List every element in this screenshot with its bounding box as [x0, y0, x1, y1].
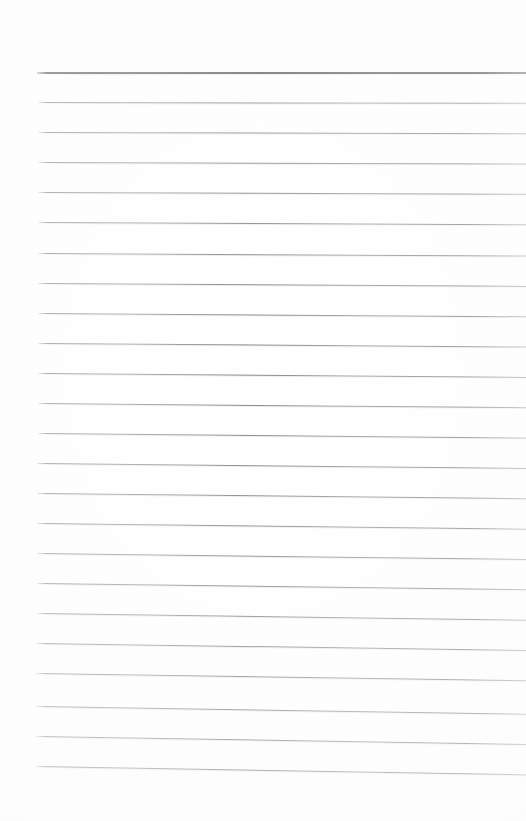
ruled-line	[37, 613, 526, 621]
scan-illumination-overlay	[0, 0, 526, 821]
ruled-line	[37, 72, 526, 74]
ruled-line	[38, 162, 526, 165]
paper-surface	[0, 0, 526, 821]
ruled-lines-layer	[0, 0, 526, 821]
ruled-line	[36, 736, 526, 745]
ruled-line	[36, 766, 526, 775]
ruled-line	[38, 283, 526, 287]
ruled-line	[38, 132, 526, 134]
ruled-line	[36, 673, 526, 681]
ruled-line	[38, 403, 526, 408]
ruled-line	[37, 523, 526, 530]
ruled-line	[36, 706, 526, 715]
ruled-line	[37, 583, 526, 590]
ruled-line	[37, 493, 526, 499]
ruled-line	[37, 463, 526, 469]
ruled-line	[38, 433, 526, 439]
ruled-line	[38, 343, 526, 348]
ruled-line	[38, 253, 526, 257]
ruled-line	[38, 102, 526, 104]
notepad-page	[0, 0, 526, 821]
ruled-line	[38, 313, 526, 317]
ruled-line	[38, 192, 526, 195]
ruled-line	[37, 553, 526, 560]
ruled-line	[36, 643, 526, 651]
ruled-line	[38, 222, 526, 225]
ruled-line	[38, 373, 526, 378]
